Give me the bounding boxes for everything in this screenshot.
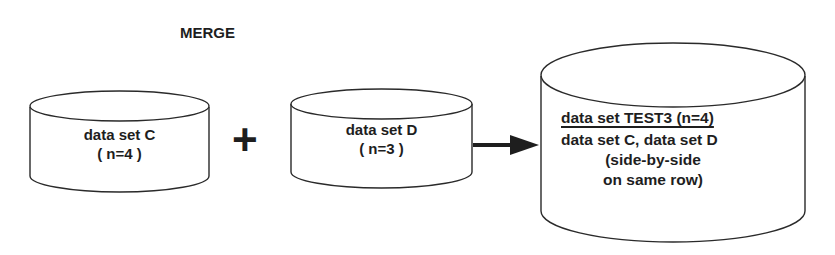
data-set-c-name: data set C [30, 125, 209, 144]
data-set-c-count: ( n=4 ) [30, 144, 209, 163]
output-line-3: on same row) [501, 170, 805, 190]
output-header: data set TEST3 (n=4) [561, 109, 714, 126]
data-set-d-label: data set D ( n=3 ) [291, 120, 472, 158]
data-set-d-name: data set D [291, 120, 472, 139]
output-label: data set TEST3 (n=4) data set C, data se… [541, 108, 805, 190]
data-set-d-count: ( n=3 ) [291, 139, 472, 158]
plus-icon: + [232, 118, 258, 162]
output-line-1: data set C, data set D [541, 130, 805, 150]
output-line-2: (side-by-side [501, 150, 805, 170]
data-set-c-label: data set C ( n=4 ) [30, 125, 209, 163]
